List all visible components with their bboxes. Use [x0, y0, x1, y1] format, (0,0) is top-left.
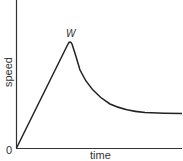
peak-label-w: W: [66, 28, 77, 39]
x-axis-label: time: [90, 149, 111, 161]
y-axis-label: speed: [2, 57, 14, 87]
speed-time-chart: W 0 time speed: [0, 0, 182, 161]
speed-curve: [17, 42, 183, 148]
origin-label: 0: [6, 144, 12, 156]
